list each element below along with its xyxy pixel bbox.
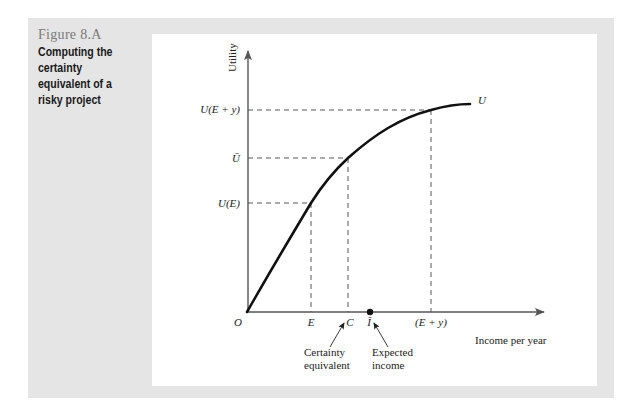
x-tick-ey: (E + y) [415, 316, 447, 329]
expected-income-arrow [374, 323, 388, 347]
x-tick-ibar: Ī [366, 316, 372, 328]
certainty-equivalent-line1: Certainty [304, 346, 345, 358]
utility-chart: Utility U U(E + y) Ū U(E) O E C Ī (E + y… [0, 0, 639, 417]
y-tick-uey: U(E + y) [200, 103, 240, 116]
curve-label: U [478, 94, 487, 106]
x-tick-c: C [346, 316, 354, 328]
y-tick-ubar: Ū [232, 152, 241, 164]
expected-income-point [367, 309, 373, 315]
y-axis-label: Utility [226, 43, 238, 72]
expected-income-line2: income [372, 359, 404, 371]
expected-income-line1: Expected [372, 346, 413, 358]
y-tick-ue: U(E) [218, 197, 240, 210]
certainty-equivalent-line2: equivalent [304, 359, 350, 371]
origin-label: O [234, 316, 242, 328]
x-tick-e: E [307, 316, 315, 328]
dashed-guides [248, 110, 431, 312]
certainty-equivalent-arrow [330, 323, 344, 347]
utility-curve [247, 104, 470, 312]
x-axis-label: Income per year [475, 334, 547, 346]
